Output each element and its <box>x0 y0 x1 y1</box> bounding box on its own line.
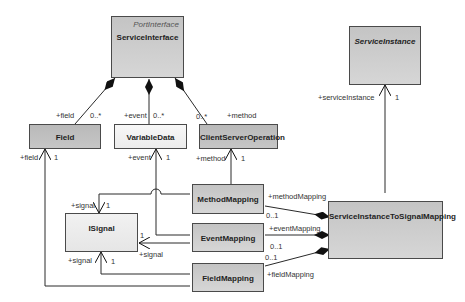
label-signal-bottom-mult: 1 <box>111 258 115 266</box>
label-signal-top-role: +signal <box>71 202 95 210</box>
label-method-mapping-mult: 0..1 <box>266 212 279 220</box>
label-signal-right-mult: 1 <box>140 232 144 240</box>
label-method-ref-role: +method <box>196 155 225 163</box>
label-event-mapping-mult: 0..1 <box>270 243 283 251</box>
class-service-interface[interactable]: PortInterface ServiceInterface <box>111 16 184 78</box>
class-field-mapping[interactable]: FieldMapping <box>192 263 264 292</box>
class-service-instance[interactable]: ServiceInstance <box>349 26 421 85</box>
label-event-role: +event <box>124 112 147 120</box>
label-field-ref-role: +field <box>20 154 38 162</box>
class-name: VariableData <box>115 133 186 142</box>
label-method-role: +method <box>227 112 256 120</box>
label-event-mapping-role: +eventMapping <box>269 225 321 233</box>
class-method-mapping[interactable]: MethodMapping <box>192 184 264 214</box>
label-event-mult: 0..* <box>153 112 164 120</box>
class-name: EventMapping <box>193 234 263 243</box>
class-service-instance-to-signal-mapping[interactable]: ServiceInstanceToSignalMapping <box>328 201 443 259</box>
class-name: ServiceInstance <box>350 37 420 46</box>
class-name: ServiceInstanceToSignalMapping <box>329 212 442 221</box>
label-method-mapping-role: +methodMapping <box>268 193 326 201</box>
class-field[interactable]: Field <box>29 124 101 149</box>
label-field-mapping-role: +fieldMapping <box>267 271 314 279</box>
class-name: MethodMapping <box>193 195 263 204</box>
label-method-ref-mult: 1 <box>241 155 245 163</box>
class-name: ISignal <box>66 224 137 233</box>
label-signal-right-role: +signal <box>139 251 163 259</box>
label-field-mapping-mult: 0..1 <box>265 254 278 262</box>
assoc-method-signal <box>99 189 190 213</box>
class-name: Field <box>30 133 100 142</box>
class-name: ServiceInterface <box>112 33 183 42</box>
label-service-instance-mult: 1 <box>395 94 399 102</box>
class-isignal[interactable]: ISignal <box>65 213 138 252</box>
label-event-ref-role: +event <box>128 154 151 162</box>
uml-class-diagram: PortInterface ServiceInterface Field Var… <box>0 0 465 302</box>
label-field-mult: 0..* <box>90 112 101 120</box>
class-variable-data[interactable]: VariableData <box>114 124 187 149</box>
class-name: FieldMapping <box>193 274 263 283</box>
stereotype-port-interface: PortInterface <box>133 20 179 29</box>
label-event-ref-mult: 1 <box>166 154 170 162</box>
class-name: ClientServerOperation <box>200 133 277 142</box>
label-field-role: +field <box>56 112 74 120</box>
label-field-ref-mult: 1 <box>54 154 58 162</box>
label-method-mult: 0..* <box>196 113 207 121</box>
class-client-server-operation[interactable]: ClientServerOperation <box>199 124 278 149</box>
label-service-instance-role: +serviceInstance <box>318 94 375 102</box>
label-signal-top-mult: 1 <box>106 202 110 210</box>
label-signal-bottom-role: +signal <box>68 257 92 265</box>
class-event-mapping[interactable]: EventMapping <box>192 223 264 252</box>
